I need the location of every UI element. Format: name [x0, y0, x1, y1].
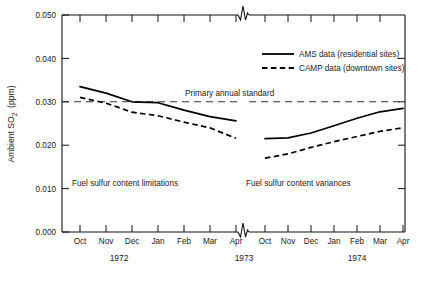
primary-standard-annotation: Primary annual standard [185, 89, 275, 98]
series-ams-panel2 [265, 108, 403, 138]
x-tick-labels-panel1: Oct Nov Dec Jan Feb Mar Apr [74, 237, 243, 246]
x-tick-label: Jan [151, 237, 165, 246]
legend-label-ams: AMS data (residential sites) [299, 50, 399, 59]
year-label-1974: 1974 [348, 253, 367, 263]
y-tick-label: 0.020 [36, 141, 57, 150]
fuel-sulfur-variances-annotation: Fuel sulfur content variances [246, 179, 351, 188]
svg-text:Ambient SO2 (ppm): Ambient SO2 (ppm) [6, 85, 18, 162]
legend-item-camp: CAMP data (downtown sites) [262, 64, 405, 73]
x-tick-label: Mar [203, 237, 217, 246]
x-axis-ticks-panel2 [265, 15, 403, 232]
y-tick-label: 0.050 [36, 11, 57, 20]
x-tick-label: Nov [99, 237, 114, 246]
y-axis-label-unit: (ppm) [6, 85, 16, 108]
x-tick-label: Jan [327, 237, 341, 246]
year-label-1972: 1972 [110, 253, 129, 263]
x-tick-label: Apr [230, 237, 243, 246]
y-tick-label: 0.030 [36, 98, 57, 107]
x-axis-year-labels: 1972 1973 1974 [110, 253, 367, 263]
y-tick-labels: 0.050 0.040 0.030 0.020 0.010 0.000 [36, 11, 57, 237]
x-tick-label: Mar [373, 237, 387, 246]
x-tick-label: Nov [281, 237, 296, 246]
chart-figure: Ambient SO2 (ppm) 0.050 0.040 0.030 0.02… [0, 0, 429, 282]
x-tick-label: Feb [177, 237, 192, 246]
x-tick-label: Feb [350, 237, 365, 246]
x-axis-ticks-panel1 [80, 15, 236, 232]
legend-label-camp: CAMP data (downtown sites) [299, 64, 405, 73]
x-tick-labels-panel2: Oct Nov Dec Jan Feb Mar Apr [259, 237, 410, 246]
y-axis-label-main: Ambient SO [6, 116, 16, 163]
y-tick-label: 0.040 [36, 55, 57, 64]
chart-legend: AMS data (residential sites) CAMP data (… [262, 50, 405, 73]
y-tick-label: 0.000 [36, 228, 57, 237]
year-label-1973: 1973 [235, 253, 254, 263]
x-tick-label: Dec [125, 237, 140, 246]
x-tick-label: Dec [304, 237, 319, 246]
y-axis-ticks [62, 15, 405, 232]
so2-trend-line-chart: Ambient SO2 (ppm) 0.050 0.040 0.030 0.02… [0, 0, 429, 282]
x-tick-label: Oct [259, 237, 272, 246]
series-camp-panel2 [265, 128, 403, 158]
axis-break-marker [238, 6, 249, 237]
legend-item-ams: AMS data (residential sites) [262, 50, 399, 59]
y-tick-label: 0.010 [36, 185, 57, 194]
fuel-sulfur-limitations-annotation: Fuel sulfur content limitations [72, 179, 178, 188]
axis-frame [62, 15, 405, 232]
x-tick-label: Apr [397, 237, 410, 246]
x-tick-label: Oct [74, 237, 87, 246]
y-axis-label: Ambient SO2 (ppm) [6, 85, 18, 162]
